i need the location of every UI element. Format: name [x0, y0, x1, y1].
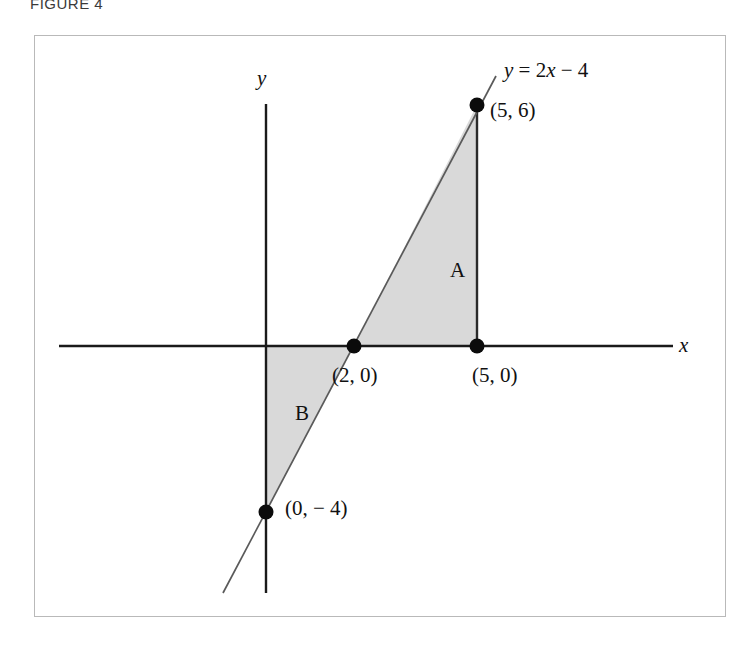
point-2-0	[347, 339, 362, 354]
point-5-0	[470, 339, 485, 354]
point-label-0-neg4: (0, − 4)	[285, 496, 348, 521]
equation-equals-term: = 2	[513, 58, 546, 82]
point-label-5-6: (5, 6)	[490, 98, 536, 123]
equation-label: y = 2x − 4	[504, 58, 588, 83]
point-label-2-0: (2, 0)	[332, 363, 378, 388]
coordinate-plot	[35, 36, 725, 616]
figure-caption: FIGURE 4	[30, 0, 103, 12]
region-label-b: B	[295, 401, 309, 426]
equation-rest-term: − 4	[556, 58, 589, 82]
point-label-5-0: (5, 0)	[472, 363, 518, 388]
x-axis-label: x	[679, 333, 688, 358]
point-5-6	[470, 98, 485, 113]
region-label-a: A	[450, 258, 465, 283]
figure-frame: y x y = 2x − 4 (5, 6) (2, 0) (5, 0) (0, …	[34, 35, 726, 617]
point-0-neg4	[259, 505, 274, 520]
y-axis-label: y	[257, 66, 266, 91]
equation-y-term: y	[504, 58, 513, 82]
equation-x-term: x	[546, 58, 555, 82]
